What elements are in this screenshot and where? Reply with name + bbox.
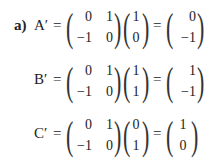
equals-sign: = [53, 71, 61, 88]
vector-close-paren: ) [142, 8, 149, 48]
vector-cell: 1 [129, 9, 143, 25]
matrix-cell: 1 [95, 117, 113, 133]
matrix-cell: −1 [74, 84, 92, 100]
matrix-open-paren: ( [66, 62, 73, 102]
result-cell: 0 [176, 138, 190, 154]
equals-sign: = [53, 125, 61, 142]
point-b-prime: B′ [34, 71, 47, 88]
vector-close-paren: ) [142, 62, 149, 102]
matrix-open-paren: ( [66, 8, 73, 48]
matrix-close-paren: ) [114, 8, 121, 48]
matrix-cell: 0 [74, 9, 92, 25]
result-open-paren: ( [166, 8, 173, 48]
matrix-cell: 0 [95, 84, 113, 100]
equation-a: a) A′ = ( 0 1 −1 0 ) ( 1 0 ) = ( 0 −1 ) [0, 6, 222, 58]
matrix-cell: 1 [95, 63, 113, 79]
vector-cell: 1 [129, 63, 143, 79]
matrix-close-paren: ) [114, 62, 121, 102]
result-close-paren: ) [197, 62, 204, 102]
equals-sign: = [153, 71, 161, 88]
result-cell: 0 [178, 9, 196, 25]
matrix-cell: 0 [95, 138, 113, 154]
equation-b: B′ = ( 0 1 −1 0 ) ( 1 1 ) = ( 1 −1 ) [0, 60, 222, 112]
vector-cell: 0 [129, 117, 143, 133]
equals-sign: = [153, 125, 161, 142]
vector-close-paren: ) [142, 116, 149, 156]
matrix-cell: 1 [95, 9, 113, 25]
equation-c: C′ = ( 0 1 −1 0 ) ( 0 1 ) = ( 1 0 ) [0, 114, 222, 166]
matrix-cell: 0 [74, 63, 92, 79]
matrix-close-paren: ) [114, 116, 121, 156]
vector-cell: 1 [129, 84, 143, 100]
result-cell: −1 [178, 30, 196, 46]
matrix-cell: −1 [74, 138, 92, 154]
matrix-cell: 0 [95, 30, 113, 46]
point-a-prime: A′ [34, 17, 48, 34]
part-label: a) [14, 17, 27, 34]
point-c-prime: C′ [34, 125, 47, 142]
equals-sign: = [53, 17, 61, 34]
matrix-cell: 0 [74, 117, 92, 133]
result-close-paren: ) [191, 116, 198, 156]
equals-sign: = [153, 17, 161, 34]
result-cell: 1 [176, 117, 190, 133]
result-close-paren: ) [197, 8, 204, 48]
vector-cell: 0 [129, 30, 143, 46]
vector-cell: 1 [129, 138, 143, 154]
result-open-paren: ( [166, 116, 173, 156]
result-cell: 1 [178, 63, 196, 79]
result-open-paren: ( [166, 62, 173, 102]
matrix-open-paren: ( [66, 116, 73, 156]
result-cell: −1 [178, 84, 196, 100]
matrix-cell: −1 [74, 30, 92, 46]
